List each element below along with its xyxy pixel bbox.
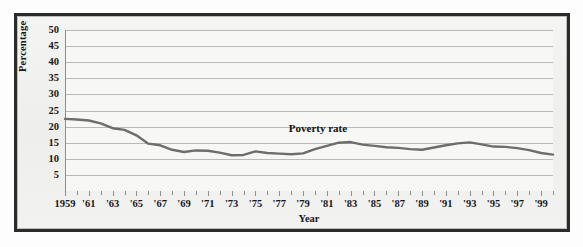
x-tick-label: '65 (130, 199, 143, 210)
x-tick (434, 191, 435, 195)
x-tick-label: '83 (344, 199, 357, 210)
series-annotation-label: Poverty rate (289, 123, 347, 134)
x-tick-label: '93 (463, 199, 476, 210)
x-tick (148, 191, 149, 195)
x-tick-label: '99 (534, 199, 547, 210)
chart-figure: Percentage 5101520253035404550 Poverty r… (0, 0, 583, 247)
y-tick-label: 20 (25, 122, 59, 133)
x-tick (482, 191, 483, 195)
x-tick (446, 191, 447, 196)
x-tick (244, 191, 245, 195)
x-tick-label: '71 (201, 199, 214, 210)
x-tick-label: '75 (249, 199, 262, 210)
x-tick (101, 191, 102, 195)
x-tick (493, 191, 494, 196)
x-axis-ticks (65, 191, 553, 197)
y-tick-label: 10 (25, 154, 59, 165)
x-tick (339, 191, 340, 195)
x-tick-label: '79 (296, 199, 309, 210)
y-tick-label: 50 (25, 25, 59, 36)
x-tick-label: '67 (154, 199, 167, 210)
x-tick-label: '73 (225, 199, 238, 210)
x-tick-label: 1959 (55, 199, 76, 210)
x-tick (327, 191, 328, 196)
x-tick (398, 191, 399, 196)
x-tick (160, 191, 161, 196)
y-tick-label: 5 (25, 170, 59, 181)
x-tick (470, 191, 471, 196)
x-axis-title: Year (65, 213, 553, 224)
y-tick-label: 40 (25, 57, 59, 68)
x-tick (315, 191, 316, 195)
x-tick-label: '95 (487, 199, 500, 210)
x-tick (279, 191, 280, 196)
plot-area: Poverty rate (65, 30, 553, 191)
x-tick (363, 191, 364, 195)
x-tick (422, 191, 423, 196)
x-tick (267, 191, 268, 195)
x-tick-label: '63 (106, 199, 119, 210)
x-tick (89, 191, 90, 196)
x-tick (184, 191, 185, 196)
x-tick (410, 191, 411, 195)
x-tick (208, 191, 209, 196)
x-tick (517, 191, 518, 196)
y-tick-label: 25 (25, 106, 59, 117)
x-tick (291, 191, 292, 195)
x-tick (255, 191, 256, 196)
x-tick-label: '77 (273, 199, 286, 210)
x-tick (374, 191, 375, 196)
x-tick (172, 191, 173, 195)
y-tick-label: 35 (25, 73, 59, 84)
x-tick-label: '69 (177, 199, 190, 210)
x-tick (65, 191, 66, 196)
x-tick (529, 191, 530, 195)
x-tick-label: '97 (511, 199, 524, 210)
x-tick (505, 191, 506, 195)
x-tick (136, 191, 137, 196)
x-tick (351, 191, 352, 196)
poverty-rate-line (65, 30, 553, 191)
x-tick (125, 191, 126, 195)
x-tick-label: '85 (368, 199, 381, 210)
x-tick (196, 191, 197, 195)
x-tick (386, 191, 387, 195)
y-tick-label: 15 (25, 138, 59, 149)
x-tick (553, 191, 554, 195)
x-tick-label: '89 (415, 199, 428, 210)
x-tick (303, 191, 304, 196)
x-tick-label: '87 (392, 199, 405, 210)
x-tick (77, 191, 78, 195)
x-tick (458, 191, 459, 195)
y-tick-label: 45 (25, 41, 59, 52)
x-tick-label: '91 (439, 199, 452, 210)
x-tick (541, 191, 542, 196)
x-tick-label: '61 (82, 199, 95, 210)
x-tick (113, 191, 114, 196)
x-tick (232, 191, 233, 196)
x-tick (220, 191, 221, 195)
x-axis-tick-labels: 1959'61'63'65'67'69'71'73'75'77'79'81'83… (65, 199, 553, 213)
y-tick-label: 30 (25, 89, 59, 100)
x-tick-label: '81 (320, 199, 333, 210)
